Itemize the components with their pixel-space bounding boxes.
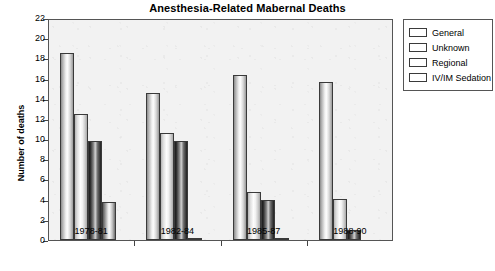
y-tick-label: 0 [40, 235, 45, 245]
bar-1985-87-general[interactable] [233, 75, 247, 240]
legend-label-regional: Regional [432, 58, 468, 68]
chart-container: Anesthesia-Related Mabernal Deaths Numbe… [0, 0, 495, 271]
x-tick-label-1988-90: 1988-90 [307, 226, 393, 236]
y-tick-label: 4 [40, 195, 45, 205]
bar-1978-81-general[interactable] [60, 53, 74, 240]
x-tick-mark [221, 241, 222, 246]
legend-item-unknown[interactable]: Unknown [409, 40, 488, 55]
y-tick-label: 8 [40, 154, 45, 164]
legend-item-general[interactable]: General [409, 25, 488, 40]
bar-1982-84-unknown[interactable] [160, 133, 174, 240]
y-axis-label: Number of deaths [16, 78, 26, 208]
legend-item-regional[interactable]: Regional [409, 55, 488, 70]
x-tick-mark [307, 241, 308, 246]
legend-swatch-unknown [409, 43, 427, 52]
legend-swatch-regional [409, 58, 427, 67]
chart-legend: General Unknown Regional IV/IM Sedation [403, 19, 493, 91]
bar-1982-84-iv-im-sedation[interactable] [188, 238, 202, 240]
x-tick-mark [134, 241, 135, 246]
y-tick-label: 22 [35, 13, 45, 23]
y-tick-label: 6 [40, 174, 45, 184]
y-tick-label: 12 [35, 114, 45, 124]
legend-label-iv-im-sedation: IV/IM Sedation [432, 73, 491, 83]
chart-title: Anesthesia-Related Mabernal Deaths [0, 2, 495, 14]
y-tick-label: 20 [35, 33, 45, 43]
legend-item-iv-im-sedation[interactable]: IV/IM Sedation [409, 70, 488, 85]
x-tick-label-1978-81: 1978-81 [48, 226, 134, 236]
bar-1982-84-general[interactable] [146, 93, 160, 240]
bar-1978-81-unknown[interactable] [74, 114, 88, 240]
legend-label-general: General [432, 28, 464, 38]
bar-1988-90-general[interactable] [319, 82, 333, 240]
y-tick-label: 18 [35, 53, 45, 63]
legend-swatch-iv-im-sedation [409, 73, 427, 82]
legend-swatch-general [409, 28, 427, 37]
y-tick-label: 14 [35, 94, 45, 104]
plot-inner [49, 20, 392, 240]
y-tick-label: 2 [40, 215, 45, 225]
legend-label-unknown: Unknown [432, 43, 470, 53]
plot-area [48, 19, 393, 241]
x-tick-label-1985-87: 1985-87 [221, 226, 307, 236]
y-tick-label: 16 [35, 74, 45, 84]
bar-1985-87-iv-im-sedation[interactable] [275, 238, 289, 240]
x-tick-label-1982-84: 1982-84 [134, 226, 220, 236]
y-tick-label: 10 [35, 134, 45, 144]
